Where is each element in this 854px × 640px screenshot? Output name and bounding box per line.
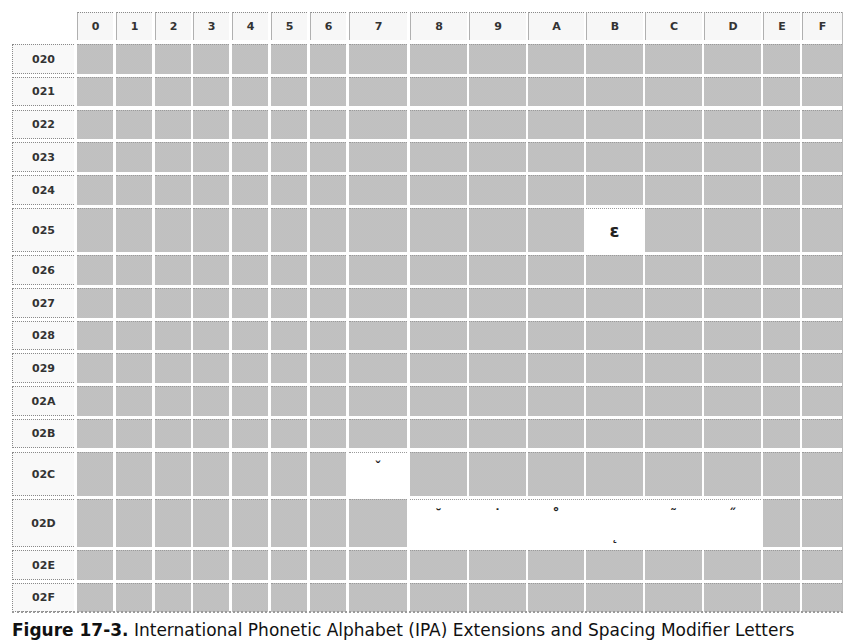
undefined-cell bbox=[528, 44, 584, 74]
undefined-cell bbox=[77, 175, 113, 205]
undefined-cell bbox=[763, 550, 800, 580]
undefined-cell bbox=[469, 175, 526, 205]
undefined-cell bbox=[645, 110, 702, 139]
undefined-cell bbox=[469, 208, 526, 252]
undefined-cell bbox=[645, 386, 702, 416]
undefined-cell bbox=[193, 353, 229, 383]
undefined-cell bbox=[704, 110, 761, 139]
undefined-cell bbox=[763, 419, 800, 448]
undefined-cell bbox=[193, 419, 229, 448]
row-header-023: 023 bbox=[12, 142, 74, 172]
undefined-cell bbox=[349, 288, 407, 318]
undefined-cell bbox=[116, 550, 152, 580]
undefined-cell bbox=[116, 288, 152, 318]
row-header-020: 020 bbox=[12, 44, 74, 74]
undefined-cell bbox=[528, 142, 584, 172]
undefined-cell bbox=[116, 110, 152, 139]
undefined-cell bbox=[802, 386, 842, 416]
undefined-cell bbox=[802, 208, 842, 252]
undefined-cell bbox=[116, 142, 152, 172]
undefined-cell bbox=[310, 255, 346, 285]
undefined-cell bbox=[469, 419, 526, 448]
undefined-cell bbox=[704, 288, 761, 318]
undefined-cell bbox=[763, 321, 800, 350]
column-header-8: 8 bbox=[410, 12, 467, 40]
undefined-cell bbox=[802, 142, 842, 172]
undefined-cell bbox=[232, 386, 268, 416]
undefined-cell bbox=[528, 353, 584, 383]
undefined-cell bbox=[528, 110, 584, 139]
undefined-cell bbox=[116, 77, 152, 106]
undefined-cell bbox=[271, 142, 307, 172]
undefined-cell bbox=[763, 288, 800, 318]
undefined-cell bbox=[586, 110, 643, 139]
column-header-5: 5 bbox=[271, 12, 307, 40]
undefined-cell bbox=[586, 321, 643, 350]
undefined-cell bbox=[155, 499, 191, 547]
undefined-cell bbox=[271, 452, 307, 496]
undefined-cell bbox=[310, 550, 346, 580]
undefined-cell bbox=[77, 321, 113, 350]
undefined-cell bbox=[310, 499, 346, 547]
undefined-cell bbox=[349, 255, 407, 285]
undefined-cell bbox=[155, 550, 191, 580]
undefined-cell bbox=[469, 110, 526, 139]
undefined-cell bbox=[310, 208, 346, 252]
undefined-cell bbox=[645, 583, 702, 612]
undefined-cell bbox=[763, 499, 800, 547]
undefined-cell bbox=[155, 353, 191, 383]
undefined-cell bbox=[193, 255, 229, 285]
undefined-cell bbox=[349, 175, 407, 205]
undefined-cell bbox=[802, 550, 842, 580]
undefined-cell bbox=[77, 110, 113, 139]
undefined-cell bbox=[349, 77, 407, 106]
row-header-027: 027 bbox=[12, 288, 74, 318]
undefined-cell bbox=[704, 175, 761, 205]
undefined-cell bbox=[410, 550, 467, 580]
undefined-cell bbox=[310, 288, 346, 318]
undefined-cell bbox=[193, 583, 229, 612]
undefined-cell bbox=[155, 77, 191, 106]
undefined-cell bbox=[469, 550, 526, 580]
undefined-cell bbox=[410, 353, 467, 383]
glyph: ˝ bbox=[729, 506, 736, 522]
undefined-cell bbox=[763, 452, 800, 496]
undefined-cell bbox=[704, 419, 761, 448]
undefined-cell bbox=[704, 583, 761, 612]
undefined-cell bbox=[155, 44, 191, 74]
row-header-029: 029 bbox=[12, 353, 74, 383]
undefined-cell bbox=[310, 77, 346, 106]
column-header-b: B bbox=[586, 12, 643, 40]
figure-caption: Figure 17-3. International Phonetic Alph… bbox=[12, 620, 794, 640]
undefined-cell bbox=[763, 386, 800, 416]
undefined-cell bbox=[349, 499, 407, 547]
undefined-cell bbox=[528, 386, 584, 416]
undefined-cell bbox=[645, 77, 702, 106]
undefined-cell bbox=[763, 353, 800, 383]
undefined-cell bbox=[193, 499, 229, 547]
undefined-cell bbox=[77, 77, 113, 106]
glyph: ˇ bbox=[375, 459, 382, 475]
undefined-cell bbox=[116, 208, 152, 252]
undefined-cell bbox=[410, 321, 467, 350]
undefined-cell bbox=[349, 419, 407, 448]
undefined-cell bbox=[802, 44, 842, 74]
row-header-025: 025 bbox=[12, 208, 74, 252]
undefined-cell bbox=[586, 419, 643, 448]
undefined-cell bbox=[349, 353, 407, 383]
undefined-cell bbox=[763, 142, 800, 172]
undefined-cell bbox=[155, 255, 191, 285]
undefined-cell bbox=[528, 288, 584, 318]
undefined-cell bbox=[271, 208, 307, 252]
glyph-cell-u02dd: ˝ bbox=[704, 499, 761, 547]
row-header-02b: 02B bbox=[12, 419, 74, 448]
undefined-cell bbox=[802, 419, 842, 448]
undefined-cell bbox=[310, 583, 346, 612]
undefined-cell bbox=[763, 208, 800, 252]
undefined-cell bbox=[271, 255, 307, 285]
column-header-d: D bbox=[704, 12, 761, 40]
undefined-cell bbox=[763, 110, 800, 139]
row-header-02d: 02D bbox=[12, 499, 74, 547]
undefined-cell bbox=[645, 208, 702, 252]
undefined-cell bbox=[763, 255, 800, 285]
